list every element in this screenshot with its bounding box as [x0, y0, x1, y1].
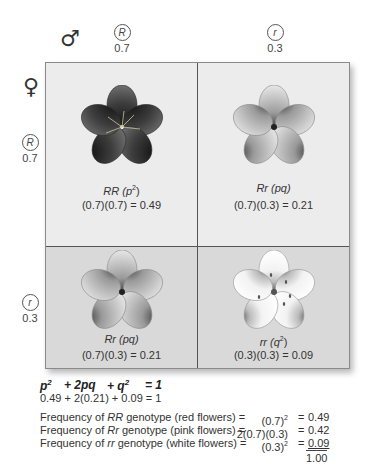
genotype: Rr — [104, 333, 116, 345]
cell-Rr-bottom: Rr (pq) (0.7)(0.3) = 0.21 — [46, 246, 197, 368]
term-2pq: + 2pq — [64, 378, 96, 392]
frequency-value: 0.42 — [308, 424, 329, 437]
white-flower-icon — [232, 250, 316, 334]
allele-frequency: 0.3 — [255, 42, 295, 55]
frequency-label: Frequency of rr genotype (white flowers)… — [40, 437, 246, 450]
term-close: ) — [284, 336, 288, 348]
genotype-calculation: (0.7)(0.3) = 0.21 — [198, 198, 349, 212]
female-allele-R: R 0.7 — [10, 134, 50, 165]
genotype-label: rr (q2) — [198, 332, 349, 349]
female-allele-r: r 0.3 — [10, 294, 50, 325]
frequency-total: 1.00 — [306, 450, 327, 464]
numeric-equation: 0.49 + 2(0.21) + 0.09 = 1 — [40, 392, 161, 404]
cell-RR: RR (p2) (0.7)(0.7) = 0.49 — [46, 63, 197, 246]
genotype: Rr — [256, 182, 268, 194]
term: (pq) — [271, 182, 291, 194]
term-q2: + q2 — [107, 378, 129, 393]
term-close: ) — [136, 185, 140, 197]
frequency-label: Frequency of RR genotype (red flowers) = — [40, 411, 245, 424]
male-allele-R: R 0.7 — [102, 24, 142, 55]
allele-circle: r — [267, 24, 284, 41]
term-p2: p2 — [40, 378, 52, 393]
genotype: rr — [260, 336, 267, 348]
frequency-row-rr: Frequency of rr genotype (white flowers)… — [40, 437, 360, 450]
frequency-value: 0.49 — [308, 411, 329, 424]
genotype-calculation: (0.7)(0.7) = 0.49 — [46, 198, 197, 212]
frequency-row-RR: Frequency of RR genotype (red flowers) =… — [40, 411, 360, 424]
cell-rr: rr (q2) (0.3)(0.3) = 0.09 — [197, 246, 349, 368]
allele-frequency: 0.7 — [10, 152, 50, 165]
genotype-label: Rr (pq) — [198, 181, 349, 195]
allele-frequency: 0.7 — [102, 42, 142, 55]
red-flower-icon — [80, 85, 164, 169]
allele-circle: r — [22, 294, 39, 311]
punnett-square: RR (p2) (0.7)(0.7) = 0.49 Rr (pq) (0. — [45, 62, 350, 369]
allele-circle: R — [114, 24, 131, 41]
term: (p — [122, 185, 132, 197]
female-symbol-icon: ♀ — [23, 76, 39, 98]
male-symbol-icon: ♂ — [60, 28, 80, 50]
equals-sign: = — [298, 424, 304, 437]
frequency-value: 0.09 — [308, 437, 329, 450]
frequency-label: Frequency of Rr genotype (pink flowers) … — [40, 424, 245, 437]
genotype-label: Rr (pq) — [46, 332, 197, 346]
term: (q — [270, 336, 280, 348]
genotype-calculation: (0.3)(0.3) = 0.09 — [198, 348, 349, 362]
genotype: RR — [103, 185, 119, 197]
genotype-calculation: (0.7)(0.3) = 0.21 — [46, 348, 197, 362]
allele-circle: R — [22, 134, 39, 151]
equals-sign: = — [298, 437, 304, 450]
genotype-label: RR (p2) — [46, 181, 197, 198]
frequency-expression: (0.3)2 — [261, 437, 288, 454]
equals-sign: = — [298, 411, 304, 424]
allele-frequency: 0.3 — [10, 312, 50, 325]
male-allele-r: r 0.3 — [255, 24, 295, 55]
term: (pq) — [119, 333, 139, 345]
genotype-frequency-table: Frequency of RR genotype (red flowers) =… — [40, 411, 360, 450]
term-equals-one: = 1 — [145, 378, 162, 392]
cell-Rr-top: Rr (pq) (0.7)(0.3) = 0.21 — [197, 63, 349, 246]
pink-flower-icon — [80, 250, 164, 334]
pink-flower-icon — [232, 85, 316, 169]
frequency-row-Rr: Frequency of Rr genotype (pink flowers) … — [40, 424, 360, 437]
